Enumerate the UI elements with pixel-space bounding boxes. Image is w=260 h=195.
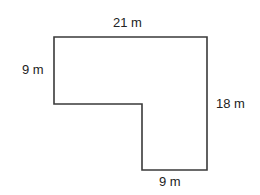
l-shape-outline	[54, 37, 207, 170]
bottom-dimension-label: 9 m	[159, 175, 181, 188]
left-dimension-label: 9 m	[22, 63, 44, 76]
diagram-canvas: 21 m 9 m 18 m 9 m	[0, 0, 260, 195]
top-dimension-label: 21 m	[113, 16, 142, 29]
right-dimension-label: 18 m	[216, 97, 245, 110]
